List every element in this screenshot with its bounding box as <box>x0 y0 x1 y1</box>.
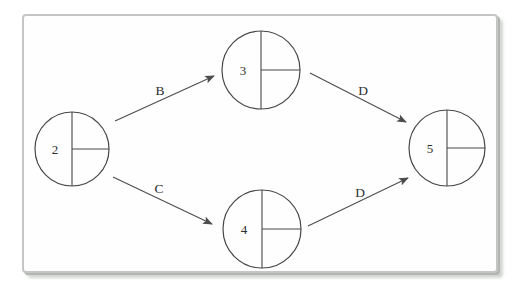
event-node-5: 5 <box>409 110 485 186</box>
event-node-2: 2 <box>35 112 109 186</box>
edge-label-4-5: D <box>355 185 365 200</box>
edge-label-2-4: C <box>154 181 163 196</box>
node-number-2: 2 <box>52 142 59 157</box>
network-diagram: BCDD2345 <box>0 0 517 290</box>
diagram-stage: BCDD2345 <box>0 0 517 290</box>
node-number-4: 4 <box>241 222 248 237</box>
event-node-3: 3 <box>222 31 300 109</box>
node-number-5: 5 <box>427 141 434 156</box>
node-number-3: 3 <box>240 63 247 78</box>
edge-label-3-5: D <box>358 83 368 98</box>
event-node-4: 4 <box>223 190 301 268</box>
edge-arrow-3-5 <box>310 73 406 122</box>
edge-label-2-3: B <box>155 83 164 98</box>
